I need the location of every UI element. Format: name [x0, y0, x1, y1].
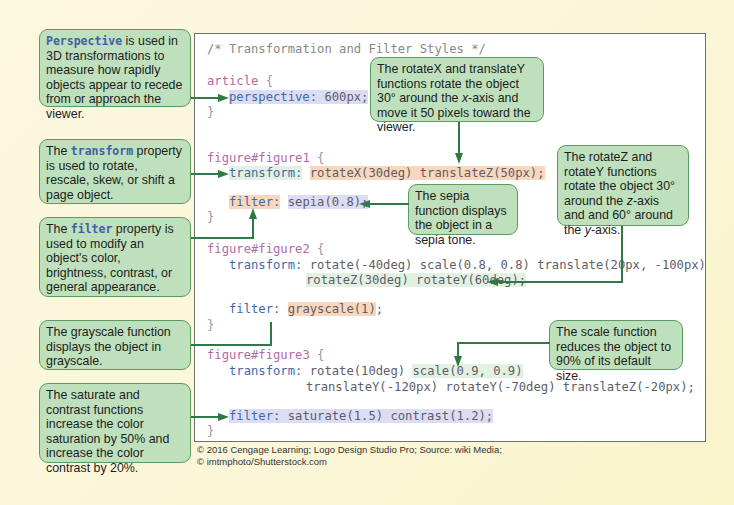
figure1-filter-property: filter:: [229, 195, 280, 209]
figure1-rule-open: figure#figure1 {: [207, 151, 324, 166]
arrow-right-icon: [218, 94, 229, 102]
figure1-filter-value: sepia(0.8);: [288, 195, 369, 209]
note-text: The: [46, 222, 71, 236]
figure2-transform-declaration: transform: rotate(-40deg) scale(0.8, 0.8…: [229, 258, 706, 273]
note-scale: The scale function reduces the object to…: [549, 320, 683, 370]
figure2-filter-declaration: filter: grayscale(1);: [229, 302, 383, 317]
figure3-transform-declaration: transform: rotate(10deg) scale(0.9, 0.9): [229, 364, 523, 379]
connector-rotatex: [458, 122, 460, 155]
perspective-keyword: Perspective: [46, 34, 122, 48]
note-text: The: [46, 144, 71, 158]
brace: {: [258, 74, 273, 88]
brace: {: [310, 151, 325, 165]
credit-line-2: © imtmphoto/Shutterstock.com: [197, 456, 502, 468]
note-grayscale: The grayscale function displays the obje…: [39, 320, 191, 370]
brace: {: [310, 242, 325, 256]
note-text: -axis.: [591, 223, 621, 237]
note-saturate-contrast: The saturate and contrast functions incr…: [39, 383, 191, 463]
arrow-up-icon: [249, 208, 257, 219]
figure2-rule-open: figure#figure2 {: [207, 242, 324, 257]
figure3-filter-highlight: filter: saturate(1.5) contrast(1.2);: [229, 409, 493, 423]
figure1-transform-property: transform:: [229, 166, 302, 180]
connector-saturate: [191, 416, 219, 418]
connector-grayscale-vertical: [270, 322, 272, 346]
semicolon: ;: [376, 302, 383, 316]
figure2-rule-close: }: [207, 318, 214, 333]
figure3-rule-open: figure#figure3 {: [207, 348, 324, 363]
arrow-right-icon: [218, 170, 229, 178]
connector-transform: [191, 173, 219, 175]
arrow-down-icon: [455, 153, 463, 164]
figure3-scale-value: scale(0.9, 0.9): [412, 364, 522, 378]
perspective-property: perspective:: [229, 90, 317, 104]
note-rotatez-rotatey: The rotateZ and rotateY functions rotate…: [557, 145, 689, 226]
figure3-selector: figure#figure3: [207, 348, 310, 362]
filter-keyword: filter: [71, 222, 113, 236]
arrow-left-icon: [359, 200, 370, 208]
connector-sepia: [369, 203, 409, 205]
transform-keyword: transform: [71, 144, 133, 158]
perspective-value: 600px;: [317, 90, 368, 104]
figure3-transform-line2: translateY(-120px) rotateY(-70deg) trans…: [306, 380, 695, 395]
connector-filter-vertical: [252, 218, 254, 239]
figure1-transform-value: rotateX(30deg) translateZ(50px);: [310, 166, 545, 180]
note-perspective: Perspective is used in 3D transformation…: [39, 29, 191, 107]
connector-rotatez-vertical: [621, 226, 623, 282]
figure2-filter-property: filter:: [229, 302, 280, 316]
article-selector: article: [207, 74, 258, 88]
connector-grayscale: [191, 344, 271, 346]
figure2-transform-value-line1: rotate(-40deg) scale(0.8, 0.8) translate…: [310, 258, 706, 272]
arrow-left-icon: [487, 278, 498, 286]
figure3-rotate-value: rotate(10deg): [310, 364, 413, 378]
credit-line-1: © 2016 Cengage Learning; Logo Design Stu…: [197, 444, 502, 456]
connector-scale: [457, 342, 550, 344]
arrow-down-icon: [454, 356, 462, 367]
article-rule-open: article {: [207, 74, 273, 89]
figure3-transform-property: transform:: [229, 364, 302, 378]
figure2-selector: figure#figure2: [207, 242, 310, 256]
note-rotatex-translate: The rotateX and translateY functions rot…: [370, 57, 544, 122]
credit-text: © 2016 Cengage Learning; Logo Design Stu…: [197, 444, 502, 468]
arrow-right-icon: [218, 413, 229, 421]
perspective-highlight: perspective: 600px;: [229, 90, 368, 104]
figure1-rule-close: }: [207, 210, 214, 225]
figure1-transform-declaration: transform: rotateX(30deg) translateZ(50p…: [229, 166, 545, 181]
code-comment: /* Transformation and Filter Styles */: [207, 42, 486, 57]
connector-filter: [191, 237, 254, 239]
connector-perspective: [191, 97, 219, 99]
figure1-selector: figure#figure1: [207, 151, 310, 165]
note-filter: The filter property is used to modify an…: [39, 217, 191, 297]
article-rule-close: }: [207, 105, 214, 120]
figure2-transform-property: transform:: [229, 258, 302, 272]
figure3-filter-declaration: filter: saturate(1.5) contrast(1.2);: [229, 409, 493, 424]
figure2-filter-value: grayscale(1): [288, 302, 376, 316]
note-transform: The transform property is used to rotate…: [39, 139, 191, 204]
figure3-filter-property: filter:: [229, 409, 280, 423]
perspective-declaration: perspective: 600px;: [229, 90, 368, 105]
figure3-filter-value: saturate(1.5) contrast(1.2);: [280, 409, 493, 423]
figure3-rule-close: }: [207, 424, 214, 439]
connector-rotatez: [497, 281, 623, 283]
brace: {: [310, 348, 325, 362]
note-sepia: The sepia function displays the object i…: [408, 184, 518, 235]
